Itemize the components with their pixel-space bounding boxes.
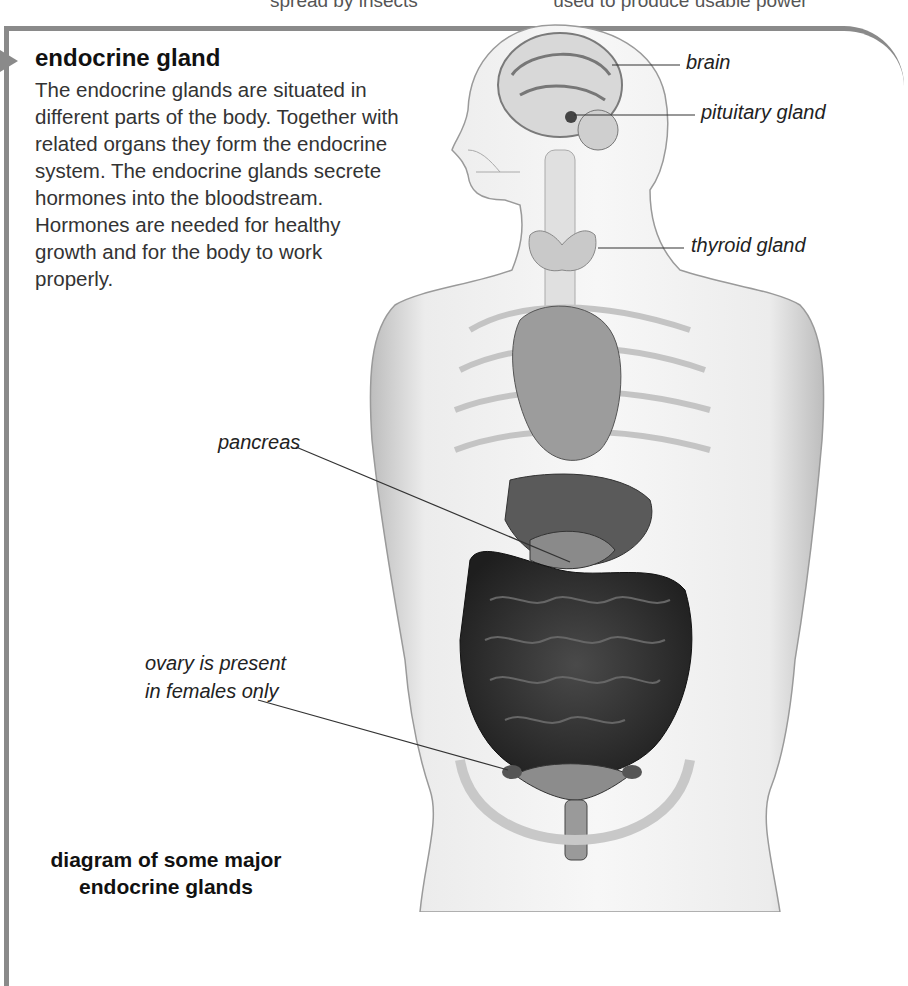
label-ovary-line2: in females only — [145, 680, 278, 703]
label-ovary-line1: ovary is present — [145, 652, 286, 675]
label-pituitary-gland: pituitary gland — [701, 101, 826, 124]
caption-line-2: endocrine glands — [36, 873, 296, 900]
caption-line-1: diagram of some major — [36, 846, 296, 873]
pituitary-shape — [565, 111, 577, 123]
label-thyroid-gland: thyroid gland — [691, 234, 806, 257]
diagram-caption: diagram of some major endocrine glands — [36, 846, 296, 900]
intestines-shape — [460, 551, 692, 777]
label-pancreas: pancreas — [218, 431, 300, 454]
ovary-shape — [502, 765, 522, 779]
label-brain: brain — [686, 51, 730, 74]
cerebellum-shape — [578, 110, 618, 150]
